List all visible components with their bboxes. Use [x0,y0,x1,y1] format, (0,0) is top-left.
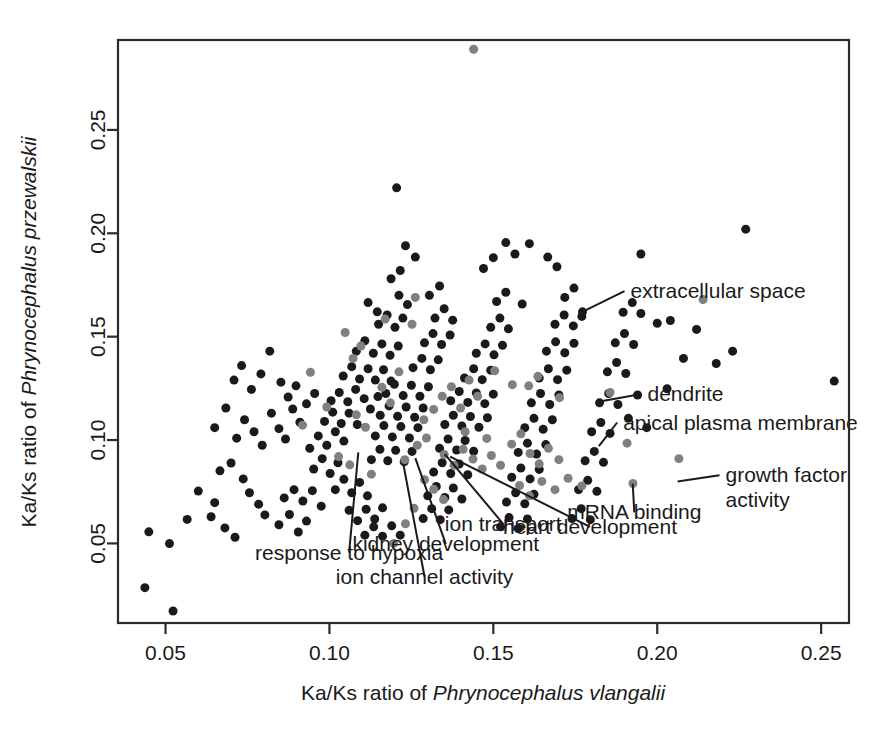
data-point [356,341,365,350]
data-point [240,415,249,424]
data-point [377,383,386,392]
data-point [621,369,630,378]
data-point [560,310,569,319]
data-point [489,390,498,399]
data-point [544,444,553,453]
data-point [326,469,335,478]
data-point [400,455,409,464]
y-tick-label: 0.15 [86,316,109,357]
data-point [349,354,358,363]
data-point [455,387,464,396]
data-point [424,382,433,391]
data-point [386,398,395,407]
data-point [446,469,455,478]
data-point [398,314,407,323]
data-point [437,340,446,349]
data-point [537,477,546,486]
data-point [554,455,563,464]
data-point [298,421,307,430]
data-point [387,521,396,530]
data-point [390,323,399,332]
data-point [309,464,318,473]
data-point [419,514,428,523]
data-point [438,458,447,467]
data-point [369,522,378,531]
data-point [550,485,559,494]
data-point [388,432,397,441]
data-point [331,427,340,436]
data-point [221,403,230,412]
data-point [595,398,604,407]
annotation-label: extracellular space [631,279,806,302]
data-point [741,225,750,234]
data-point [515,481,524,490]
data-point [457,494,466,503]
data-point [399,391,408,400]
data-point [409,363,418,372]
data-point [375,445,384,454]
data-point [636,309,645,318]
data-point [490,366,499,375]
data-point [379,421,388,430]
data-point [516,463,525,472]
annotation-label: response to hypoxia [255,541,443,564]
x-axis-title: Ka/Ks ratio of Phrynocephalus vlangalii [301,681,667,704]
data-point [508,380,517,389]
data-point [417,354,426,363]
data-point [393,412,402,421]
data-point [562,366,571,375]
data-point [620,329,629,338]
data-point [553,375,562,384]
data-point [378,503,387,512]
data-point [302,517,311,526]
data-point [525,239,534,248]
data-point [288,405,297,414]
y-tick-label: 0.05 [86,523,109,564]
data-point [352,410,361,419]
data-point [386,351,395,360]
data-point [469,364,478,373]
data-point [220,523,229,532]
data-point [728,347,737,356]
data-point [308,486,317,495]
data-point [369,349,378,358]
data-point [292,381,301,390]
data-point [535,459,544,468]
data-point [411,253,420,262]
data-point [479,264,488,273]
data-point [360,394,369,403]
data-point [210,423,219,432]
data-point [373,307,382,316]
annotation-label: dendrite [648,382,724,405]
data-point [463,398,472,407]
data-point [305,444,314,453]
data-point [419,415,428,424]
data-point [314,431,323,440]
data-point [371,376,380,385]
data-point [429,485,438,494]
data-point [510,249,519,258]
data-point [254,500,263,509]
data-point [394,341,403,350]
data-point [183,515,192,524]
data-point [403,300,412,309]
x-tick-label: 0.20 [637,641,678,664]
data-point [407,381,416,390]
data-point [489,253,498,262]
data-point [440,304,449,313]
data-point [629,340,638,349]
data-point [507,473,516,482]
data-point [351,385,360,394]
data-point [542,347,551,356]
data-point [456,403,465,412]
data-point [310,389,319,398]
data-point [250,427,259,436]
data-point [392,183,401,192]
data-point [207,512,216,521]
data-point [317,502,326,511]
data-point [564,474,573,483]
data-point [294,528,303,537]
data-point [543,253,552,262]
data-point [339,371,348,380]
data-point [410,413,419,422]
